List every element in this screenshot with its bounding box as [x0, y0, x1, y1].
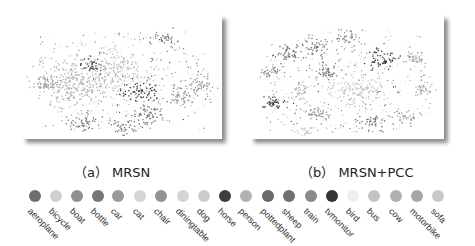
- legend-item-motorbike: motorbike: [417, 188, 418, 246]
- scatter-panel-b: [250, 15, 444, 139]
- legend-item-diningtable: diningtable: [183, 188, 184, 246]
- legend-item-bus: bus: [374, 188, 375, 246]
- scatter-plot-a: [22, 15, 222, 139]
- legend-item-pottedplant: pottedplant: [268, 188, 269, 246]
- legend-dot-icon: [92, 190, 104, 202]
- legend-item-bottle: bottle: [98, 188, 99, 246]
- legend-label: chair: [152, 206, 173, 227]
- legend-label: bird: [344, 206, 362, 224]
- caption-b: （b） MRSN+PCC: [300, 162, 414, 181]
- legend-item-chair: chair: [161, 188, 162, 246]
- legend-dot-icon: [326, 190, 338, 202]
- legend-item-bicycle: bicycle: [56, 188, 57, 246]
- legend-label: dog: [195, 206, 213, 224]
- legend: aeroplanebicycleboatbottlecarcatchairdin…: [0, 188, 475, 246]
- legend-dot-icon: [198, 190, 210, 202]
- legend-item-cow: cow: [396, 188, 397, 246]
- legend-item-car: car: [118, 188, 119, 246]
- legend-label: bottle: [89, 206, 112, 229]
- legend-dot-icon: [262, 190, 274, 202]
- legend-dot-icon: [219, 190, 231, 202]
- legend-label: cow: [387, 206, 405, 224]
- legend-label: horse: [216, 206, 239, 229]
- legend-item-bird: bird: [353, 188, 354, 246]
- legend-item-cat: cat: [140, 188, 141, 246]
- legend-item-horse: horse: [225, 188, 226, 246]
- legend-item-aeroplane: aeroplane: [35, 188, 36, 246]
- legend-label: bus: [365, 206, 382, 223]
- legend-dot-icon: [29, 190, 41, 202]
- scatter-panel-a: [22, 15, 222, 139]
- legend-label: car: [109, 206, 125, 222]
- legend-dot-icon: [411, 190, 423, 202]
- legend-item-train: train: [311, 188, 312, 246]
- legend-dot-icon: [134, 190, 146, 202]
- legend-dot-icon: [112, 190, 124, 202]
- legend-label: train: [302, 206, 321, 225]
- legend-label: cat: [131, 206, 147, 222]
- legend-dot-icon: [305, 190, 317, 202]
- legend-item-tvmonitor: tvmonitor: [332, 188, 333, 246]
- legend-dot-icon: [155, 190, 167, 202]
- legend-dot-icon: [71, 190, 83, 202]
- legend-item-person: person: [246, 188, 247, 246]
- legend-dot-icon: [347, 190, 359, 202]
- legend-dot-icon: [283, 190, 295, 202]
- scatter-plot-b: [250, 15, 444, 139]
- legend-dot-icon: [432, 190, 444, 202]
- legend-dot-icon: [368, 190, 380, 202]
- caption-a: （a） MRSN: [74, 162, 150, 181]
- legend-dot-icon: [177, 190, 189, 202]
- legend-label: person: [237, 206, 264, 233]
- legend-item-sheep: sheep: [289, 188, 290, 246]
- legend-dot-icon: [240, 190, 252, 202]
- legend-dot-icon: [50, 190, 62, 202]
- legend-item-boat: boat: [77, 188, 78, 246]
- legend-item-dog: dog: [204, 188, 205, 246]
- legend-item-sofa: sofa: [438, 188, 439, 246]
- legend-dot-icon: [390, 190, 402, 202]
